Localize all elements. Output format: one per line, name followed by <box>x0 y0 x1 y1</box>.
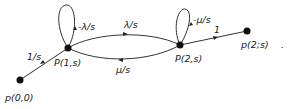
edge-label-neg-mu-over-s: -μ/s <box>193 14 211 25</box>
node-label-P2s: P(2,s) <box>175 53 202 64</box>
edge-label-one: 1 <box>214 24 220 35</box>
arrow-icon <box>123 32 128 36</box>
node-label-P1s: P(1,s) <box>54 57 81 68</box>
node-P2s <box>177 42 184 49</box>
self-loop-P1s <box>59 5 75 48</box>
arrow-icon <box>213 36 218 40</box>
edge-label-1-over-s: 1/s <box>27 51 41 62</box>
signal-flow-graph: 1/s -λ/s λ/s μ/s -μ/s 1 p(0,0) P(1,s) P(… <box>0 0 292 109</box>
edge-label-lambda-over-s: λ/s <box>123 19 138 30</box>
edge-label-mu-over-s: μ/s <box>115 64 130 75</box>
node-P1s <box>65 45 72 52</box>
edge-P1s-to-P2s <box>68 35 180 48</box>
node-label-p00: p(0,0) <box>4 92 34 103</box>
node-p00 <box>17 77 24 84</box>
trailing-period: . <box>281 39 284 50</box>
arrow-icon <box>73 26 77 30</box>
self-loop-P2s <box>176 9 189 45</box>
edge-label-neg-lambda-over-s: -λ/s <box>78 21 95 32</box>
node-label-p2s: p(2;s) <box>240 39 269 50</box>
node-p2s <box>244 28 251 35</box>
edge-P2s-to-P1s <box>68 45 180 59</box>
